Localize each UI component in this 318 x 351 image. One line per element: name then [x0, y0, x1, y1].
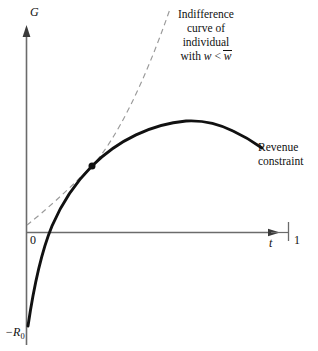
- wage-variable: w: [204, 50, 212, 62]
- indifference-annotation-line-4: with w < w: [152, 49, 260, 64]
- y-axis-arrowhead: [23, 25, 31, 37]
- y-axis-bottom-label-prefix: −R: [5, 325, 20, 339]
- less-than-operator: <: [212, 50, 224, 62]
- revenue-constraint-curve: [28, 121, 262, 326]
- indifference-curve: [27, 9, 170, 225]
- economics-figure: G 0 t 1 −R0 Indifference curve of indivi…: [0, 0, 318, 351]
- origin-label: 0: [30, 233, 36, 247]
- indifference-annotation-with-word: with: [181, 50, 204, 62]
- y-axis-bottom-label: −R0: [5, 325, 25, 341]
- indifference-annotation-line-1: Indifference: [152, 8, 260, 22]
- y-axis-label: G: [30, 5, 39, 19]
- revenue-annotation-line-1: Revenue: [258, 141, 318, 155]
- indifference-annotation-line-3: individual: [152, 36, 260, 50]
- revenue-annotation-line-2: constraint: [258, 155, 318, 169]
- x-tick-label-one: 1: [294, 233, 300, 247]
- indifference-curve-annotation: Indifference curve of individual with w …: [152, 8, 260, 64]
- x-axis-label: t: [269, 236, 272, 250]
- indifference-annotation-line-2: curve of: [152, 22, 260, 36]
- revenue-constraint-annotation: Revenue constraint: [258, 141, 318, 169]
- wage-bar-variable: w: [224, 49, 232, 64]
- y-axis-bottom-label-subscript: 0: [20, 331, 24, 341]
- tangency-point-marker: [89, 163, 96, 170]
